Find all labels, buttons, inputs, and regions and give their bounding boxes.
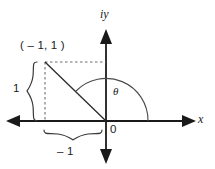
angle-arc [76,78,148,121]
horizontal-brace [44,130,102,140]
complex-plane-figure: ( – 1, 1 ) iy x θ 0 1 – 1 [0,0,215,169]
horizontal-brace-label: – 1 [57,146,74,158]
y-axis-label: iy [100,8,109,20]
x-axis-label: x [198,113,203,125]
x-axis-arrow-right-icon [182,115,196,127]
y-axis-arrow-up-icon [100,29,112,44]
vertical-brace [27,62,37,121]
point-coordinate-label: ( – 1, 1 ) [20,40,65,52]
origin-label: 0 [110,124,116,136]
vertical-brace-label: 1 [13,83,19,95]
y-axis-arrow-down-icon [100,149,112,164]
vector-ray-to-point [45,62,106,121]
x-axis-arrow-left-icon [6,115,20,127]
y-axis [100,29,112,164]
figure-canvas [0,0,215,169]
angle-theta-label: θ [113,86,118,97]
